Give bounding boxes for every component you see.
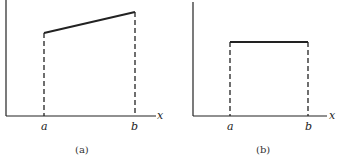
panel-b-tick-b: b	[305, 121, 312, 132]
panel-a-top-line	[44, 12, 135, 33]
panel-a-graphics	[6, 0, 156, 116]
panel-b-graphics	[193, 2, 327, 116]
panel-b-x-label: x	[329, 110, 335, 121]
diagram-canvas	[0, 0, 341, 166]
panel-a-tick-a: a	[41, 121, 48, 132]
panel-a-x-label: x	[157, 110, 163, 121]
panel-b-tick-a: a	[227, 121, 234, 132]
panel-a-caption: (a)	[75, 145, 89, 155]
panel-b-caption: (b)	[256, 145, 270, 155]
panel-a-tick-b: b	[131, 121, 138, 132]
